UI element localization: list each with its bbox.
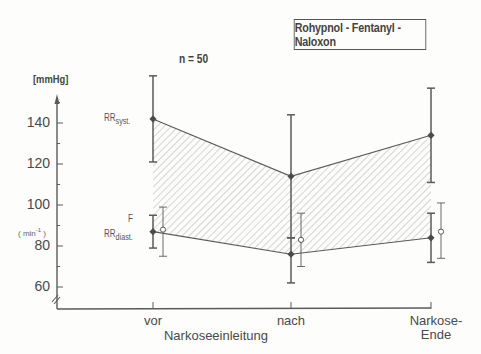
label-rr-syst: RRsyst. <box>104 112 130 126</box>
y-tick-80: 80 <box>10 237 50 253</box>
label-rr-diast-sub: diast. <box>116 232 133 242</box>
hatched-band <box>153 119 431 254</box>
sample-size-label: n = 50 <box>179 52 208 66</box>
x-tick-ende: Ende <box>406 327 466 342</box>
y-tick-120: 120 <box>10 155 50 171</box>
x-group-label: Narkoseeinleitung <box>156 328 276 343</box>
label-f: F <box>128 213 133 224</box>
chart-canvas <box>0 0 481 354</box>
x-tick-narkose: Narkose- <box>396 313 476 328</box>
y-tick-100: 100 <box>10 196 50 212</box>
y-tick-60: 60 <box>10 278 50 294</box>
y-unit-pressure: [mmHg] <box>33 73 68 85</box>
x-axis-line <box>57 308 431 309</box>
label-rr-syst-sub: syst. <box>116 116 131 126</box>
open-circle-marker-icon <box>438 229 443 234</box>
open-circle-marker-icon <box>298 237 303 242</box>
label-rr-syst-main: RR <box>104 112 116 123</box>
title-box: Rohypnol - Fentanyl - Naloxon <box>294 19 426 50</box>
hatched-area <box>153 119 431 254</box>
label-rr-diast: RRdiast. <box>104 228 133 242</box>
label-rr-diast-main: RR <box>104 228 116 239</box>
y-tick-140: 140 <box>10 114 50 130</box>
open-circle-marker-icon <box>160 227 165 232</box>
x-tick-nach: nach <box>266 313 316 328</box>
x-tick-vor: vor <box>133 313 173 328</box>
